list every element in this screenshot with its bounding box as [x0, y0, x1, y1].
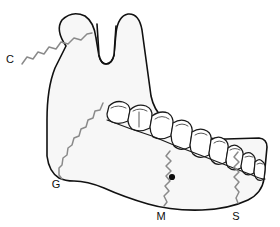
mandible-outline — [47, 14, 267, 210]
label-s: S — [232, 210, 239, 222]
tooth-first-molar — [150, 112, 173, 139]
label-g: G — [52, 178, 61, 190]
label-c: C — [6, 53, 14, 65]
mandible-illustration: C G M S — [0, 0, 280, 227]
mandible-body-group — [47, 14, 267, 210]
sigmoid-notch — [98, 20, 115, 62]
tooth-third-molar — [107, 102, 130, 124]
label-m: M — [156, 210, 165, 222]
mandible-figure: C G M S — [0, 0, 280, 227]
mental-foramen — [169, 174, 175, 180]
